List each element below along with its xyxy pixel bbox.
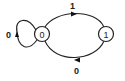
state-diagram: 0 1 0 0 1	[0, 0, 125, 81]
arrow-head-0-to-1	[71, 12, 77, 17]
edge-label-1-to-0: 0	[74, 66, 79, 76]
state-node-0: 0	[35, 27, 50, 42]
arrow-head-1-to-0	[74, 58, 80, 63]
arrow-head-self-loop	[15, 31, 19, 37]
state-label-1: 1	[104, 30, 109, 40]
edge-0-to-1	[45, 13, 104, 27]
edge-label-0-to-1: 1	[70, 1, 75, 11]
state-label-0: 0	[40, 30, 45, 40]
state-node-1: 1	[99, 27, 114, 42]
edge-1-to-0	[45, 41, 104, 58]
edge-label-self-loop: 0	[6, 30, 11, 40]
